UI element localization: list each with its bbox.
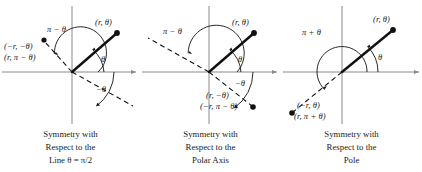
label-reflected-secondary: (r, π − θ) bbox=[4, 52, 36, 63]
label-angle-pi-minus-theta: π − θ bbox=[47, 24, 66, 35]
label-point-r-theta: (r, θ) bbox=[232, 17, 249, 28]
panel-3-caption: Symmetry with Respect to the Pole bbox=[281, 128, 422, 166]
point-r-theta bbox=[114, 30, 120, 36]
x-axis-arrow bbox=[272, 70, 277, 74]
caption-line-2: Respect to the bbox=[140, 141, 281, 154]
diagram-panel-line-theta-pi-over-2: (r, θ) (−r, −θ) (r, π − θ) π − θ θ −θ Sy… bbox=[0, 0, 141, 172]
label-reflected-secondary: (r, π + θ) bbox=[294, 111, 326, 122]
label-angle-theta: θ bbox=[238, 54, 242, 65]
caption-line-1: Symmetry with bbox=[281, 128, 422, 141]
ray-r-theta bbox=[72, 33, 117, 72]
ray-r-theta bbox=[209, 33, 254, 72]
label-reflected-secondary: (−r, π − θ) bbox=[200, 101, 238, 112]
ray-r-theta bbox=[342, 30, 393, 72]
caption-line-1: Symmetry with bbox=[140, 128, 281, 141]
panel-1-graphic bbox=[0, 0, 141, 128]
dashed-ray-pi-minus-theta bbox=[148, 38, 209, 72]
point-reflected bbox=[41, 37, 46, 42]
caption-line-3: Line θ = π/2 bbox=[0, 154, 141, 167]
x-axis-arrow bbox=[414, 70, 419, 74]
caption-line-2: Respect to the bbox=[281, 141, 422, 154]
caption-line-2: Respect to the bbox=[0, 141, 141, 154]
polar-symmetry-figure: (r, θ) (−r, −θ) (r, π − θ) π − θ θ −θ Sy… bbox=[0, 0, 422, 172]
label-reflected-primary: (r, −θ) bbox=[206, 90, 229, 101]
label-point-r-theta: (r, θ) bbox=[95, 17, 112, 28]
arc-pi-minus-theta-arrow bbox=[188, 51, 192, 54]
point-r-theta bbox=[390, 27, 396, 33]
label-angle-theta: θ bbox=[101, 54, 105, 65]
label-point-r-theta: (r, θ) bbox=[373, 14, 390, 25]
diagram-panel-pole: (r, θ) (−r, θ) (r, π + θ) π + θ θ Symmet… bbox=[281, 0, 422, 172]
label-angle-pi-plus-theta: π + θ bbox=[302, 27, 321, 38]
label-reflected-primary: (−r, −θ) bbox=[4, 41, 33, 52]
label-angle-negative-theta: −θ bbox=[96, 84, 106, 95]
diagram-panel-polar-axis: (r, θ) (r, −θ) (−r, π − θ) π − θ θ −θ Sy… bbox=[140, 0, 281, 172]
dashed-ray-reflected bbox=[45, 42, 72, 72]
panel-1-caption: Symmetry with Respect to the Line θ = π/… bbox=[0, 128, 141, 166]
x-axis-arrow bbox=[131, 70, 136, 74]
caption-line-3: Pole bbox=[281, 154, 422, 167]
point-r-theta bbox=[251, 30, 257, 36]
caption-line-3: Polar Axis bbox=[140, 154, 281, 167]
label-reflected-primary: (−r, θ) bbox=[297, 100, 320, 111]
caption-line-1: Symmetry with bbox=[0, 128, 141, 141]
label-angle-negative-theta: −θ bbox=[235, 78, 245, 89]
label-angle-theta: θ bbox=[378, 52, 382, 63]
panel-2-caption: Symmetry with Respect to the Polar Axis bbox=[140, 128, 281, 166]
point-reflected bbox=[250, 104, 256, 110]
label-angle-pi-minus-theta: π − θ bbox=[163, 26, 182, 37]
